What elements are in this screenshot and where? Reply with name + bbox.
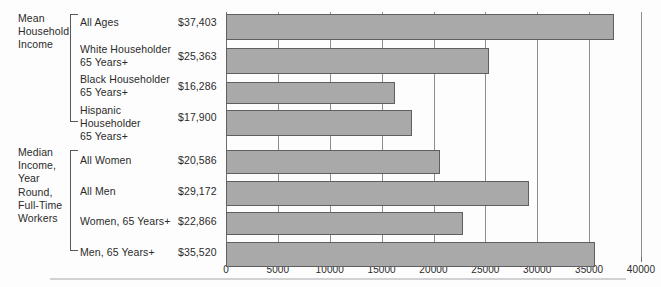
row-label: All Men <box>80 185 180 198</box>
row-value: $29,172 <box>178 185 228 198</box>
bar <box>226 14 614 40</box>
row-label: Men, 65 Years+ <box>80 246 180 259</box>
row-label: Black Householder 65 Years+ <box>80 73 180 99</box>
row-value: $25,363 <box>178 50 228 63</box>
bar <box>226 150 440 174</box>
bar <box>226 181 529 206</box>
bar <box>226 82 395 104</box>
row-value: $17,900 <box>178 111 228 124</box>
gridline-35000 <box>589 12 590 257</box>
gridline-30000 <box>537 12 538 257</box>
row-label: Hispanic Householder 65 Years+ <box>80 104 180 144</box>
bar <box>226 48 489 74</box>
bar <box>226 242 595 267</box>
gridline-40000 <box>641 12 642 257</box>
bracket-median-income <box>70 150 78 251</box>
row-value: $37,403 <box>178 16 228 29</box>
row-label: White Householder 65 Years+ <box>80 43 180 69</box>
row-label: All Ages <box>80 16 180 29</box>
plot-area: 0500010000150002000025000300003500040000 <box>226 12 641 257</box>
row-label: All Women <box>80 154 180 167</box>
row-label: Women, 65 Years+ <box>80 215 180 228</box>
row-value: $16,286 <box>178 80 228 93</box>
row-value: $20,586 <box>178 154 228 167</box>
row-value: $22,866 <box>178 215 228 228</box>
bracket-mean-household-income <box>70 14 78 122</box>
bar <box>226 110 412 136</box>
tick-mark-40000 <box>641 257 642 262</box>
bar <box>226 212 463 235</box>
row-value: $35,520 <box>178 246 228 259</box>
footer-rule <box>50 278 626 280</box>
chart-figure: Mean Household Income Median Income, Yea… <box>0 0 661 287</box>
tick-label-40000: 40000 <box>627 264 655 275</box>
